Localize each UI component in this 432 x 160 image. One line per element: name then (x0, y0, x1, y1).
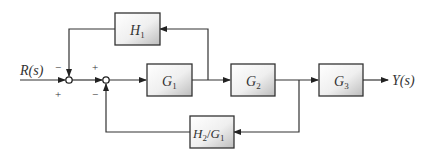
input-label: R(s) (19, 63, 44, 79)
input-label-arg: (s) (29, 63, 44, 79)
block-h1: H1 (115, 13, 160, 45)
output-label-arg: (s) (400, 73, 415, 89)
s2-top-sign: + (92, 61, 98, 73)
summing-junction-2 (103, 77, 109, 83)
s1-bottom-sign: + (55, 88, 61, 100)
block-g1: G1 (147, 64, 192, 96)
block-h2-over-g1: H2/G1 (190, 116, 234, 148)
s1-top-sign: − (55, 61, 61, 73)
block-g3: G3 (319, 64, 363, 96)
s2-bottom-sign: − (92, 88, 98, 100)
block-diagram: − + + − R(s) Y(s) H1 G1 G2 G3 (0, 0, 432, 160)
input-label-main: R (19, 63, 29, 78)
output-label: Y(s) (392, 73, 415, 89)
summing-junction-1 (66, 77, 72, 83)
block-g2: G2 (231, 64, 275, 96)
block-h2-over-g1-label: H2/G1 (192, 126, 224, 143)
